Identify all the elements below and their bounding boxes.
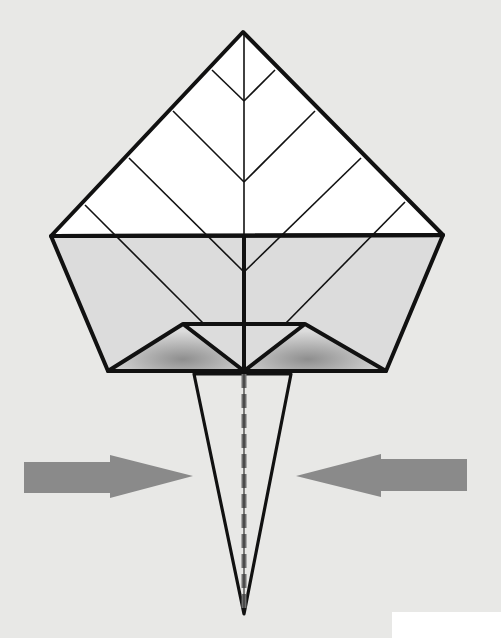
gray-band xyxy=(51,235,443,371)
origami-diagram xyxy=(0,0,501,638)
band-top-edge xyxy=(51,235,443,236)
push-right-arrow-icon xyxy=(24,455,193,498)
blank-corner-patch xyxy=(392,612,501,638)
push-left-arrow-icon xyxy=(296,454,467,497)
top-triangle xyxy=(51,32,443,236)
